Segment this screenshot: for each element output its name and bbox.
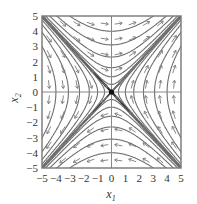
direction-arrow-icon (74, 127, 80, 133)
direction-arrow-icon (61, 96, 64, 104)
y-tick-label: 1 (33, 71, 39, 83)
direction-arrow-icon (129, 128, 136, 132)
y-tick-label: 2 (33, 56, 39, 68)
y-tick-label: 3 (33, 40, 39, 52)
direction-arrow-icon (144, 51, 150, 57)
direction-arrow-icon (101, 22, 109, 25)
direction-arrow-icon (130, 96, 133, 104)
y-tick-label: 4 (33, 25, 39, 37)
x-tick-label: −2 (78, 172, 90, 184)
x-tick-label: 2 (137, 172, 143, 184)
phase-portrait-figure: −5−4−3−2−1012345 543210−1−2−3−4−5 x1 x2 (0, 0, 197, 204)
direction-arrow-icon (173, 65, 176, 73)
direction-arrow-icon (173, 80, 176, 88)
direction-arrow-icon (115, 22, 123, 25)
direction-arrow-icon (144, 111, 148, 118)
y-tick-label: −1 (26, 101, 38, 113)
direction-arrow-icon (145, 80, 148, 88)
direction-arrow-icon (87, 52, 94, 56)
direction-arrow-icon (75, 96, 78, 104)
direction-arrow-icon (158, 96, 161, 104)
x-axis-label: x1 (105, 187, 115, 203)
direction-arrow-icon (101, 68, 108, 71)
direction-arrow-icon (172, 36, 177, 43)
direction-arrow-icon (89, 80, 92, 88)
x-tick-label: −4 (50, 172, 62, 184)
x-tick-label: 3 (150, 172, 156, 184)
direction-arrow-icon (48, 65, 51, 73)
direction-arrow-icon (172, 111, 175, 119)
x-tick-label: 5 (178, 172, 184, 184)
direction-arrow-icon (101, 37, 109, 40)
direction-arrow-icon (87, 22, 94, 25)
direction-arrow-icon (101, 159, 109, 162)
phase-portrait-svg: −5−4−3−2−1012345 543210−1−2−3−4−5 x1 x2 (0, 0, 197, 204)
x-tick-labels: −5−4−3−2−1012345 (36, 172, 184, 184)
direction-arrow-icon (101, 144, 109, 147)
direction-arrow-icon (75, 66, 79, 73)
direction-arrow-icon (47, 36, 52, 43)
direction-arrow-icon (115, 52, 123, 55)
direction-arrow-icon (115, 159, 123, 162)
direction-arrow-icon (47, 95, 50, 103)
direction-arrow-icon (129, 158, 136, 161)
x-tick-label: 1 (123, 172, 129, 184)
direction-arrow-icon (87, 159, 94, 162)
y-tick-label: 0 (33, 86, 39, 98)
direction-arrow-icon (172, 95, 175, 103)
direction-arrow-icon (47, 80, 50, 88)
direction-arrow-icon (157, 21, 163, 26)
y-tick-label: −3 (26, 132, 38, 144)
y-tick-label: −2 (26, 116, 38, 128)
direction-arrow-icon (172, 142, 177, 149)
direction-arrow-icon (115, 37, 123, 40)
direction-arrow-icon (61, 80, 64, 88)
x-tick-label: −1 (92, 172, 104, 184)
direction-arrow-icon (159, 80, 162, 88)
equilibrium-point (109, 89, 114, 94)
y-tick-labels: 543210−1−2−3−4−5 (26, 10, 38, 174)
direction-arrow-icon (129, 22, 136, 25)
y-tick-label: −5 (26, 162, 38, 174)
direction-arrow-icon (47, 111, 50, 119)
x-tick-label: 4 (164, 172, 170, 184)
y-axis-label: x2 (7, 93, 23, 103)
direction-arrow-icon (87, 128, 94, 132)
direction-arrow-icon (101, 129, 109, 132)
direction-arrow-icon (47, 142, 52, 149)
direction-arrow-icon (115, 113, 122, 116)
y-tick-label: −4 (26, 147, 38, 159)
direction-arrow-icon (60, 158, 66, 163)
direction-arrow-icon (129, 52, 136, 56)
direction-arrow-icon (115, 143, 123, 146)
x-tick-label: −3 (64, 172, 76, 184)
y-tick-label: 5 (33, 10, 39, 22)
x-tick-label: 0 (109, 172, 115, 184)
